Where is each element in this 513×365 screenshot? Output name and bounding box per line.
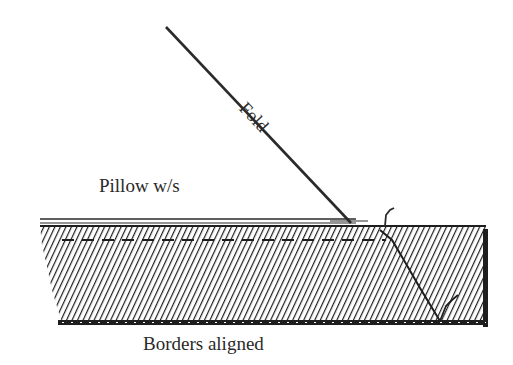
- hatched-fabric: [40, 226, 488, 327]
- corner-squiggle-mark: [385, 208, 394, 226]
- pillow-edge-line: [40, 219, 368, 223]
- borders-aligned-label: Borders aligned: [143, 333, 264, 355]
- pillow-fold-diagram: [0, 0, 513, 365]
- pillow-label: Pillow w/s: [99, 175, 180, 197]
